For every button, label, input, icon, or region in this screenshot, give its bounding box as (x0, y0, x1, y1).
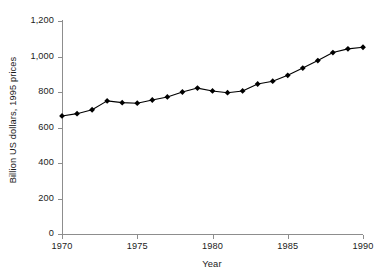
data-series-layer (0, 0, 388, 280)
data-point-marker (300, 65, 306, 71)
data-point-marker (285, 72, 291, 78)
data-point-marker (59, 113, 65, 119)
data-point-marker (149, 97, 155, 103)
data-point-marker (270, 78, 276, 84)
data-point-marker (210, 88, 216, 94)
series-line (62, 47, 363, 116)
data-point-marker (360, 44, 366, 50)
data-point-marker (255, 81, 261, 87)
data-point-marker (330, 50, 336, 56)
data-point-marker (345, 46, 351, 52)
x-axis-label: Year (62, 258, 362, 269)
data-point-marker (180, 89, 186, 95)
series-markers (59, 44, 366, 118)
chart-figure: Billion US dollars, 1995 prices 02004006… (0, 0, 388, 280)
data-point-marker (164, 94, 170, 100)
data-point-marker (104, 98, 110, 104)
data-point-marker (195, 85, 201, 91)
data-point-marker (119, 100, 125, 106)
data-point-marker (225, 90, 231, 96)
data-point-marker (240, 88, 246, 94)
data-point-marker (74, 111, 80, 117)
data-point-marker (89, 107, 95, 113)
data-point-marker (134, 100, 140, 106)
data-point-marker (315, 58, 321, 64)
